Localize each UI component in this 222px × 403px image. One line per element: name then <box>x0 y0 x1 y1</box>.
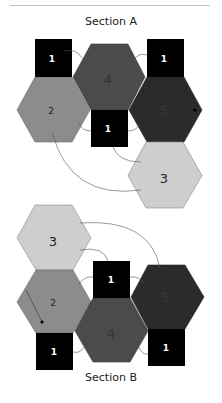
dot-marker <box>40 320 43 323</box>
hexagon-label: 4 <box>104 72 112 87</box>
puzzle-diagram: 1 1 1 2 4 5 3 3 2 4 <box>0 0 222 403</box>
square-label: 1 <box>108 275 114 285</box>
dot-marker <box>193 108 196 111</box>
section-b: 3 2 4 5 1 1 1 <box>17 205 204 370</box>
hexagon-label: 3 <box>49 234 57 249</box>
hexagon-label: 3 <box>160 171 168 186</box>
section-a: 1 1 1 2 4 5 3 <box>17 39 202 208</box>
square-label: 1 <box>163 343 169 353</box>
hexagon-label: 5 <box>162 290 170 305</box>
hexagon-label: 4 <box>107 326 115 341</box>
square-label: 1 <box>49 54 55 64</box>
hexagon-label: 5 <box>160 103 168 118</box>
hexagon-label: 2 <box>48 106 54 116</box>
square-label: 1 <box>105 124 111 134</box>
hexagon-label: 2 <box>50 298 56 308</box>
square-label: 1 <box>161 54 167 64</box>
square-label: 1 <box>51 347 57 357</box>
